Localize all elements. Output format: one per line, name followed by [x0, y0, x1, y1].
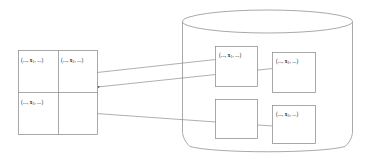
db-box-4-label: (..., x3, ...): [276, 112, 298, 118]
diagram-vector-layer: [0, 0, 368, 164]
table-cell-r1c2-label: (..., x2, ...): [61, 58, 83, 64]
diagram-canvas: (..., x1, ...) (..., x2, ...) (..., x3, …: [0, 0, 368, 164]
db-box-2-label: (..., x2, ...): [276, 59, 298, 65]
database-cylinder-shape: [183, 10, 353, 152]
cylinder-top-ellipse: [183, 10, 353, 33]
db-box-3-rect: [216, 100, 258, 139]
table-cell-r1c1-label: (..., x1, ...): [21, 58, 43, 64]
table-cell-r2c1-label: (..., x3, ...): [21, 100, 43, 106]
db-box-1-label: (..., x1, ...): [219, 53, 241, 59]
